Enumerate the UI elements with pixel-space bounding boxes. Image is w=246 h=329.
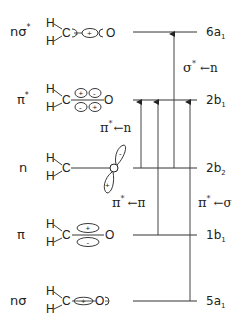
transition-label-sigma-star-n: σ*←n	[183, 59, 218, 75]
svg-text:-: -	[93, 89, 96, 98]
orbital-row-pi: π H H C + - O 1b1	[17, 217, 226, 249]
svg-text:H: H	[46, 217, 55, 231]
svg-text:H: H	[46, 169, 55, 183]
orbital-row-n: n H H C - + 2b2	[19, 145, 226, 193]
svg-text:-: -	[79, 103, 82, 112]
symmetry-label: 5a1	[206, 294, 225, 310]
svg-text:C: C	[62, 228, 71, 242]
orbital-row-pi-star: π* H H C + - - + O 2b1	[17, 82, 226, 114]
svg-text:H: H	[46, 100, 55, 114]
svg-text:C: C	[62, 93, 71, 107]
svg-text:H: H	[46, 82, 55, 96]
svg-text:H: H	[46, 284, 55, 298]
formaldehyde-structure: H H C - +	[46, 145, 126, 193]
svg-text:O: O	[106, 26, 115, 40]
svg-text:H: H	[46, 235, 55, 249]
svg-text:H: H	[46, 151, 55, 165]
orbital-name: n	[19, 160, 27, 175]
svg-text:O: O	[95, 294, 104, 308]
svg-text:H: H	[46, 16, 55, 30]
svg-text:C: C	[62, 294, 71, 308]
svg-text:+: +	[79, 89, 84, 98]
orbital-name: nσ	[10, 293, 26, 308]
formaldehyde-structure: H H C + O	[46, 284, 109, 316]
svg-text:C: C	[62, 161, 71, 175]
svg-text:O: O	[105, 228, 114, 242]
orbital-name: π	[17, 227, 25, 242]
orbital-name: nσ*	[10, 23, 30, 39]
svg-text:+: +	[93, 103, 98, 112]
formaldehyde-structure: H H C - + O	[46, 16, 115, 48]
transition-label-pi-star-sigma: π*←σ	[198, 194, 232, 210]
svg-text:+: +	[86, 224, 91, 233]
symmetry-label: 6a1	[206, 25, 225, 41]
svg-text:H: H	[46, 302, 55, 316]
orbital-name: π*	[17, 91, 29, 107]
symmetry-label: 2b1	[206, 93, 226, 109]
symmetry-label: 2b2	[206, 161, 226, 177]
svg-text:-: -	[87, 238, 90, 247]
svg-text:+: +	[105, 181, 110, 190]
transition-label-pi-star-n: π*←n	[100, 119, 132, 135]
formaldehyde-structure: H H C + - - + O	[46, 82, 113, 114]
orbital-row-nsigma-star: nσ* H H C - + O 6a1	[10, 16, 225, 48]
orbital-row-nsigma: nσ H H C + O 5a1	[10, 284, 225, 316]
svg-text:-: -	[119, 149, 122, 158]
symmetry-label: 1b1	[206, 228, 226, 244]
mo-diagram: nσ* H H C - + O 6a1 π* H H C	[0, 0, 246, 329]
svg-text:+: +	[81, 297, 86, 306]
svg-text:H: H	[46, 34, 55, 48]
svg-text:O: O	[104, 93, 113, 107]
svg-text:+: +	[87, 29, 92, 38]
formaldehyde-structure: H H C + - O	[46, 217, 114, 249]
transition-label-pi-star-pi: π*←π	[112, 194, 146, 210]
svg-text:-: -	[75, 29, 78, 38]
svg-text:C: C	[62, 26, 71, 40]
